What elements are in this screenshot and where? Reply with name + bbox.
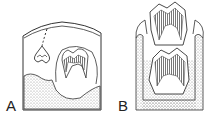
panel-label-b: B: [118, 98, 128, 113]
panel-label-a: A: [6, 98, 16, 113]
tooth-bud-diagram-a: [0, 0, 107, 118]
panel-b: B: [107, 0, 214, 118]
panel-a: A: [0, 0, 107, 118]
